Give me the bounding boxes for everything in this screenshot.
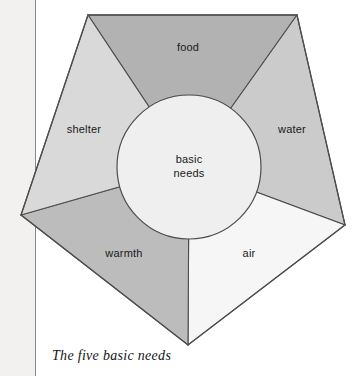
sector-label-shelter: shelter (67, 123, 102, 135)
figure-caption: The five basic needs (52, 348, 171, 364)
sector-label-warmth: warmth (104, 247, 142, 259)
center-label-line2: needs (174, 167, 205, 179)
five-basic-needs-diagram: food water air warmth shelter basic need… (0, 0, 357, 376)
sector-label-water: water (277, 123, 306, 135)
sector-label-food: food (177, 41, 199, 53)
sector-label-air: air (243, 247, 256, 259)
figure-page: food water air warmth shelter basic need… (0, 0, 357, 376)
center-label-line1: basic (176, 153, 203, 165)
